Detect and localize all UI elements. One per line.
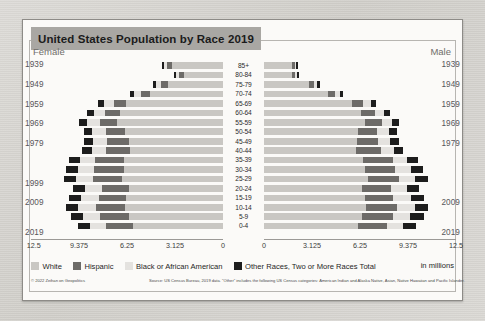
bar-segment [85, 185, 102, 192]
bar-segment [117, 119, 223, 126]
male-bar [264, 195, 456, 202]
bar-segment [172, 62, 223, 69]
bar-segment [102, 185, 129, 192]
male-bar [264, 223, 456, 230]
bar-segment [99, 195, 127, 202]
bar-segment [397, 204, 415, 211]
age-group-label: 40-44 [223, 146, 264, 155]
pyramid-row: 55-59 [31, 118, 456, 127]
bar-segment [150, 91, 223, 98]
bar-segment [126, 195, 223, 202]
bar-segment [358, 128, 376, 135]
birth-year-label-right: 1959 [441, 100, 460, 109]
bar-segment [81, 195, 98, 202]
female-bar [31, 213, 223, 220]
bar-segment [114, 100, 127, 107]
bar-segment [78, 223, 90, 230]
male-bar [264, 185, 456, 192]
female-bar [31, 72, 223, 79]
bar-segment [371, 100, 376, 107]
bar-segment [78, 166, 94, 173]
bar-segment [264, 166, 365, 173]
bar-segment [264, 213, 362, 220]
bar-segment [264, 223, 358, 230]
pyramid-plot: 85+80-8475-7970-7465-6960-6455-5950-5445… [31, 61, 456, 264]
bar-segment [133, 223, 223, 230]
bar-segment [79, 119, 87, 126]
bar-segment [264, 110, 361, 117]
birth-year-label-right: 1979 [441, 139, 460, 148]
legend-label: Hispanic [84, 262, 113, 271]
pyramid-rows: 85+80-8475-7970-7465-6960-6455-5950-5445… [31, 61, 456, 239]
age-group-label: 5-9 [223, 212, 264, 221]
bar-segment [168, 81, 223, 88]
pyramid-row: 75-79 [31, 80, 456, 89]
pyramid-row: 80-84 [31, 70, 456, 79]
bar-segment [264, 81, 309, 88]
axis-line-right [264, 239, 456, 240]
bar-segment [120, 110, 223, 117]
bar-segment [363, 157, 392, 164]
pyramid-row: 45-49 [31, 137, 456, 146]
bar-segment [80, 157, 95, 164]
male-side-label: Male [430, 46, 451, 57]
pyramid-row: 40-44 [31, 146, 456, 155]
axis-tick-left: 12.5 [27, 241, 41, 250]
female-bar [31, 128, 223, 135]
bar-segment [96, 204, 125, 211]
pyramid-row: 65-69 [31, 99, 456, 108]
bar-segment [393, 157, 407, 164]
female-side-label: Female [33, 46, 65, 57]
female-bar [31, 62, 223, 69]
male-bar [264, 147, 456, 154]
female-bar [31, 176, 223, 183]
bar-segment [83, 213, 100, 220]
bar-segment [368, 176, 398, 183]
age-group-label: 60-64 [223, 108, 264, 117]
bar-segment [264, 72, 292, 79]
birth-year-label-left: 1979 [25, 139, 44, 148]
age-group-label: 10-14 [223, 203, 264, 212]
pyramid-row: 5-9 [31, 212, 456, 221]
chart-legend: WhiteHispanicBlack or African AmericanOt… [31, 259, 456, 273]
axis-tick-left: 9.375 [70, 241, 88, 250]
bar-segment [391, 185, 408, 192]
female-bar [31, 110, 223, 117]
axis-tick-right: 12.5 [449, 241, 463, 250]
bar-segment [389, 128, 397, 135]
bar-segment [105, 110, 120, 117]
female-bar [31, 100, 223, 107]
legend-swatch-icon [31, 262, 39, 270]
bar-segment [296, 62, 297, 69]
bar-segment [362, 213, 392, 220]
bar-segment [82, 147, 92, 154]
bar-segment [130, 147, 223, 154]
bar-segment [124, 166, 223, 173]
bar-segment [328, 91, 335, 98]
female-bar [31, 91, 223, 98]
axis-tick-right: 6.25 [353, 241, 367, 250]
copyright-text: © 2022 Zeihan on Geopolitics [31, 278, 85, 283]
bar-segment [365, 195, 394, 202]
age-group-label: 25-29 [223, 174, 264, 183]
pyramid-row: 0-4 [31, 221, 456, 230]
axis-tick-left: 0 [221, 241, 225, 250]
bar-segment [358, 223, 387, 230]
bar-segment [340, 91, 343, 98]
bar-segment [407, 185, 419, 192]
bar-segment [366, 204, 397, 211]
female-bar [31, 204, 223, 211]
bar-segment [106, 147, 131, 154]
birth-year-label-right: 1969 [441, 119, 460, 128]
bar-segment [395, 166, 410, 173]
bar-segment [357, 138, 379, 145]
female-bar [31, 119, 223, 126]
birth-year-label-left: 1959 [25, 100, 44, 109]
pyramid-row: 60-64 [31, 108, 456, 117]
bar-segment [107, 138, 129, 145]
legend-item: Hispanic [73, 262, 114, 271]
male-bar [264, 213, 456, 220]
birth-year-label-left: 1949 [25, 80, 44, 89]
male-bar [264, 157, 456, 164]
bar-segment [76, 176, 93, 183]
